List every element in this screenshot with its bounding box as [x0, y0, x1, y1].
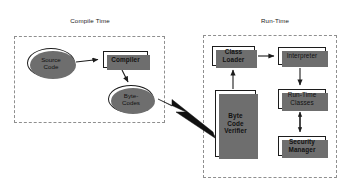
node-class-loader-label: Class Loader [223, 48, 245, 63]
node-compiler-label: Compiler [111, 56, 140, 64]
node-byte-codes-label: Byte- Codes [122, 92, 140, 107]
node-source-code[interactable]: Source Code [27, 48, 75, 78]
node-class-loader[interactable]: Class Loader [212, 46, 255, 66]
node-security-manager[interactable]: Security Manager [278, 136, 326, 156]
edge-source-code-to-compiler [76, 60, 98, 63]
node-interpreter-label: Interpreter [287, 52, 318, 60]
edge-compiler-to-byte-codes [122, 70, 128, 82]
node-interpreter[interactable]: Interpreter [278, 47, 326, 65]
node-compiler[interactable]: Compiler [103, 51, 148, 68]
node-source-code-label: Source Code [41, 56, 61, 71]
node-byte-codes[interactable]: Byte- Codes [108, 85, 154, 113]
node-byte-code-verifier[interactable]: Byte Code Verifier [215, 90, 256, 157]
node-runtime-classes[interactable]: Run-Time Classes [278, 89, 326, 109]
node-byte-code-verifier-label: Byte Code Verifier [224, 112, 246, 135]
node-runtime-classes-label: Run-Time Classes [288, 91, 317, 106]
node-security-manager-label: Security Manager [289, 138, 316, 153]
java-platform-architecture-diagram: Compile Time Run-Time [0, 0, 350, 190]
